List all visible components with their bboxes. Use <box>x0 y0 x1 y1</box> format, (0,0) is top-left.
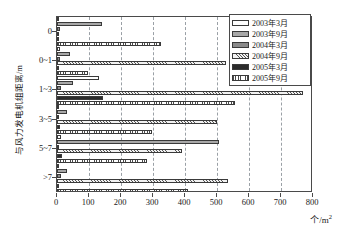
bar <box>57 32 59 36</box>
legend-label: 2004年9月 <box>252 50 288 61</box>
bar <box>57 101 235 105</box>
bar <box>57 57 60 61</box>
y-axis-tick <box>52 119 56 120</box>
y-axis-tick-label: 1~3 <box>39 84 52 94</box>
y-axis-tick <box>52 177 56 178</box>
x-axis-tick-label: 300 <box>146 197 159 207</box>
legend-swatch <box>232 53 249 59</box>
bar <box>57 52 70 56</box>
bar <box>57 154 62 158</box>
bar <box>57 145 59 149</box>
y-axis-tick <box>52 60 56 61</box>
bar <box>57 22 102 26</box>
legend-item[interactable]: 2003年3月 <box>232 17 307 28</box>
chart-legend: 2003年3月2003年9月2004年3月2004年9月2005年3月2005年… <box>229 14 311 86</box>
bar <box>57 37 59 41</box>
bar <box>57 149 182 153</box>
bar <box>57 110 67 114</box>
bar <box>57 27 60 31</box>
legend-label: 2005年9月 <box>252 72 288 83</box>
bar <box>57 76 99 80</box>
bar <box>57 159 147 163</box>
x-axis-title-exponent: 2 <box>329 213 332 220</box>
bar <box>57 115 59 119</box>
bar <box>57 96 103 100</box>
bar <box>57 120 217 124</box>
bar <box>57 125 60 129</box>
bar <box>57 47 60 51</box>
legend-swatch <box>232 31 249 37</box>
legend-swatch <box>232 64 249 70</box>
legend-item[interactable]: 2005年3月 <box>232 61 307 72</box>
y-axis-tick-label: 5~7 <box>39 143 52 153</box>
bar <box>57 86 61 90</box>
y-axis-tick-label: 0~1 <box>39 55 52 65</box>
legend-item[interactable]: 2003年9月 <box>232 28 307 39</box>
y-axis-tick <box>52 31 56 32</box>
x-axis-title-text: 个/m <box>310 215 329 225</box>
x-axis-tick-label: 400 <box>178 197 191 207</box>
bar <box>57 42 161 46</box>
legend-label: 2004年3月 <box>252 39 288 50</box>
legend-swatch <box>232 20 249 26</box>
bar <box>57 174 61 178</box>
y-axis-tick <box>52 148 56 149</box>
x-axis-title: 个/m2 <box>310 213 332 226</box>
x-axis-tick-label: 500 <box>210 197 223 207</box>
bar <box>57 179 228 183</box>
legend-label: 2003年9月 <box>252 28 288 39</box>
x-axis-tick-label: 0 <box>54 197 58 207</box>
bar <box>57 164 59 168</box>
legend-item[interactable]: 2005年9月 <box>232 72 307 83</box>
bar <box>57 169 67 173</box>
legend-item[interactable]: 2004年9月 <box>232 50 307 61</box>
y-axis-title: 与风力发电机组距离/m <box>12 54 24 166</box>
chart-figure: 与风力发电机组距离/m 个/m2 2003年3月2003年9月2004年3月20… <box>0 0 344 250</box>
x-axis-tick-label: 600 <box>242 197 255 207</box>
bar <box>57 71 88 75</box>
bar <box>57 140 219 144</box>
legend-item[interactable]: 2004年3月 <box>232 39 307 50</box>
x-axis-tick-label: 200 <box>114 197 127 207</box>
y-axis-tick-label: >7 <box>43 172 52 182</box>
bar <box>57 189 188 192</box>
legend-label: 2003年3月 <box>252 17 288 28</box>
bar <box>57 105 59 109</box>
bar <box>57 66 59 70</box>
bar <box>57 81 73 85</box>
bar <box>57 91 303 95</box>
y-axis-tick-label: 0 <box>48 26 52 36</box>
x-axis-tick-label: 700 <box>274 197 287 207</box>
bar <box>57 184 59 188</box>
y-axis-tick-label: 3~5 <box>39 114 52 124</box>
legend-label: 2005年3月 <box>252 61 288 72</box>
bar <box>57 17 59 21</box>
legend-swatch <box>232 75 249 81</box>
x-axis-tick-label: 100 <box>82 197 95 207</box>
bar <box>57 130 152 134</box>
legend-swatch <box>232 42 249 48</box>
y-axis-tick <box>52 89 56 90</box>
x-axis-tick-label: 800 <box>306 197 319 207</box>
bar <box>57 135 61 139</box>
bar <box>57 61 226 65</box>
